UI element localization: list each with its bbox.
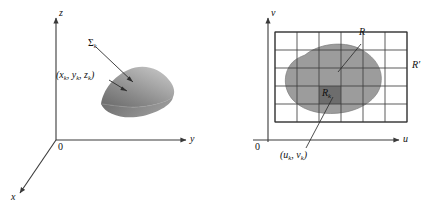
surface-patch-label: Σk: [88, 38, 97, 48]
sample-point-sub-z: k: [88, 74, 91, 81]
origin-label-uv: 0: [255, 142, 260, 152]
right-panel-canvas: [213, 0, 427, 210]
sample-point-mid2: , z: [79, 69, 88, 80]
sample-point-open: (x: [56, 69, 64, 80]
origin-label-xyz: 0: [58, 142, 63, 152]
uv-mid: , v: [291, 149, 300, 160]
figure-root: z y x 0 Σk (xk, yk, zk): [0, 0, 427, 210]
sample-point-label-uv: (uk, vk): [280, 150, 307, 160]
axis-label-y: y: [190, 134, 194, 144]
sample-point-mid1: , y: [67, 69, 76, 80]
grid-cell-Rk-label: Rk: [322, 88, 331, 98]
region-R-label: R: [359, 27, 365, 37]
surface-patch-shape: [101, 67, 174, 118]
sample-point-sub-x: k: [64, 74, 67, 81]
sample-point-close: ): [91, 69, 94, 80]
sigma-subscript: k: [94, 42, 97, 49]
axis-label-x: x: [11, 192, 15, 202]
uv-sub-v: k: [301, 154, 304, 161]
rk-subscript: k: [328, 92, 331, 99]
sigma-glyph: Σ: [88, 37, 94, 48]
axis-x: [20, 140, 56, 193]
axis-label-u: u: [403, 134, 408, 144]
right-panel: v u 0 R R′ Rk (uk, vk): [213, 0, 427, 210]
uv-close: ): [304, 149, 307, 160]
uv-sub-u: k: [288, 154, 291, 161]
left-panel: z y x 0 Σk (xk, yk, zk): [0, 0, 214, 210]
prime-glyph: ′: [418, 59, 420, 70]
sample-point-sub-y: k: [76, 74, 79, 81]
axis-label-v: v: [271, 8, 275, 18]
sample-point-label-xyz: (xk, yk, zk): [56, 70, 94, 80]
region-R-prime-label: R′: [412, 60, 420, 70]
axis-label-z: z: [59, 8, 63, 18]
left-panel-canvas: [0, 0, 214, 210]
leader-line-sigma: [96, 47, 133, 82]
